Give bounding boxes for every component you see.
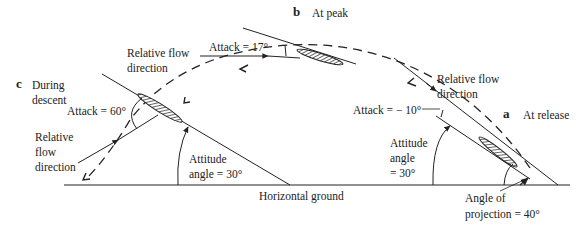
peak-relative-flow-label-2: direction bbox=[127, 61, 168, 75]
descent-relative-flow-label-3: direction bbox=[35, 160, 76, 174]
peak-relative-flow-label-1: Relative flow bbox=[127, 46, 189, 60]
projection-label-2: projection = 40° bbox=[465, 207, 540, 221]
projection-label-1: Angle of bbox=[465, 191, 506, 205]
release-relative-flow-label-2: direction bbox=[437, 87, 478, 101]
attack-release-label: Attack = − 10° bbox=[353, 103, 421, 117]
release-relative-flow-label-1: Relative flow bbox=[437, 72, 499, 86]
descent-relative-flow-label-2: flow bbox=[35, 145, 56, 159]
attitude-release-label-3: = 30° bbox=[390, 166, 415, 180]
stage-c-title-line1: During bbox=[32, 78, 65, 92]
stage-c-title-line2: descent bbox=[32, 93, 66, 107]
stage-c-descent bbox=[78, 74, 290, 185]
attitude-descent-label-2: angle = 30° bbox=[189, 167, 242, 181]
stage-c-letter: c bbox=[16, 76, 22, 92]
stage-a-title: At release bbox=[523, 108, 569, 122]
attitude-release-label-2: angle bbox=[390, 151, 415, 165]
descent-relative-flow-label-1: Relative bbox=[35, 130, 73, 144]
attack-descent-label: Attack = 60° bbox=[67, 104, 126, 118]
stage-a-letter: a bbox=[503, 106, 510, 122]
stage-b-title: At peak bbox=[312, 6, 348, 20]
attitude-descent-label-1: Attitude bbox=[189, 152, 227, 166]
attack-peak-label: Attack = 17° bbox=[209, 40, 268, 54]
attitude-release-label-1: Attitude bbox=[390, 136, 428, 150]
javelin-flight-diagram: b At peak Relative flow direction Attack… bbox=[0, 0, 585, 225]
ground-label: Horizontal ground bbox=[259, 189, 344, 203]
stage-b-letter: b bbox=[293, 4, 300, 20]
